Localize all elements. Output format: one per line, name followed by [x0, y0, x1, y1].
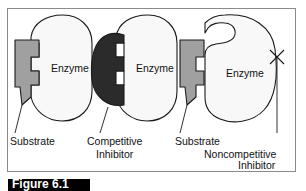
competitive-inhibitor-shape	[91, 33, 124, 105]
enzyme-label-2: Enzyme	[136, 62, 174, 74]
enzyme-inhibition-figure: Enzyme Substrate Enzyme Competitive Inhi…	[0, 0, 306, 191]
competitive-inhibitor-label-line2: Inhibitor	[96, 148, 134, 160]
diagram-panel: Enzyme Substrate Enzyme Competitive Inhi…	[7, 8, 296, 172]
leader-line-competitive-inhibitor	[100, 107, 108, 133]
substrate-shape-2	[180, 40, 204, 105]
substrate-label-2: Substrate	[175, 135, 220, 147]
enzyme-label-1: Enzyme	[51, 62, 89, 74]
enzyme-inhibition-diagram: Enzyme Substrate Enzyme Competitive Inhi…	[8, 9, 295, 171]
figure-caption-bar: Figure 6.1	[8, 179, 90, 191]
panel-competitive-inhibition: Enzyme Competitive Inhibitor	[87, 15, 177, 160]
enzyme-label-3: Enzyme	[226, 67, 264, 79]
substrate-label-1: Substrate	[10, 135, 55, 147]
figure-caption-text: Figure 6.1	[12, 179, 69, 191]
leader-line-substrate-2	[180, 105, 187, 133]
noncompetitive-inhibitor-label-line2: Inhibitor	[238, 159, 276, 171]
panel-noncompetitive-inhibition: Enzyme Substrate Noncompetitive Inhibito…	[175, 15, 284, 171]
competitive-inhibitor-label-line1: Competitive	[87, 135, 143, 147]
panel-normal-binding: Enzyme Substrate	[10, 15, 92, 147]
leader-line-substrate-1	[15, 105, 22, 133]
